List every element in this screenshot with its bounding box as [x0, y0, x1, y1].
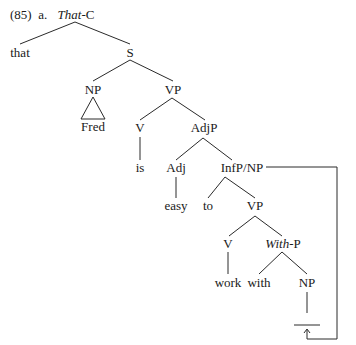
leaf-to: to	[203, 199, 213, 213]
leaf-that: that	[10, 46, 30, 60]
leaf-easy: easy	[164, 199, 187, 213]
node-adjp: AdjP	[191, 121, 218, 135]
movement-path	[266, 167, 337, 339]
node-v-main: V	[135, 121, 144, 135]
node-s: S	[126, 46, 133, 60]
example-label: (85) a.	[10, 8, 47, 22]
node-that-c: That-C	[58, 8, 95, 22]
leaf-work: work	[215, 276, 242, 290]
leaf-is: is	[136, 161, 145, 175]
node-vp-inf: VP	[247, 199, 264, 213]
example-number: (85)	[10, 7, 32, 22]
node-adj: Adj	[166, 161, 186, 175]
node-v-inf: V	[223, 237, 232, 251]
node-with-p: With-P	[265, 237, 300, 251]
node-infp-np: InfP/NP	[221, 161, 264, 175]
node-np-object: NP	[299, 276, 316, 290]
node-vp-main: VP	[165, 83, 182, 97]
node-np-subject: NP	[85, 83, 102, 97]
example-sub: a.	[38, 7, 47, 22]
syntax-tree: (85) a. That-C that S NP VP Fred V AdjP …	[0, 0, 356, 345]
triangle-icon	[81, 97, 105, 119]
leaf-with: with	[247, 276, 270, 290]
leaf-fred: Fred	[81, 120, 105, 134]
